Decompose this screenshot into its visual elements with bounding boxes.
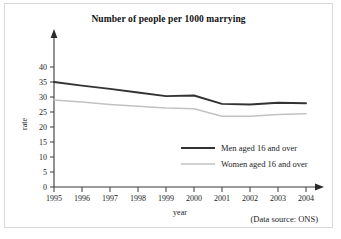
x-axis-title: year <box>173 208 187 217</box>
y-tick-label: 5 <box>43 168 47 177</box>
y-axis-title: rate <box>20 118 29 130</box>
x-tick-label: 1995 <box>46 194 62 203</box>
y-axis-tick-labels: 0 5 10 15 20 25 30 35 40 <box>39 63 47 192</box>
x-tick-label: 2003 <box>270 194 286 203</box>
y-tick-label: 30 <box>39 93 47 102</box>
x-axis-ticks <box>54 187 306 192</box>
y-tick-label: 0 <box>43 183 47 192</box>
x-tick-label: 2000 <box>186 194 202 203</box>
chart-surface: Number of people per 1000 marrying <box>5 4 332 227</box>
data-source-note: (Data source: ONS) <box>250 214 318 224</box>
x-tick-label: 1998 <box>130 194 146 203</box>
y-axis-ticks <box>50 67 54 187</box>
y-tick-label: 40 <box>39 63 47 72</box>
chart-figure-frame: Number of people per 1000 marrying <box>4 3 333 228</box>
legend-label-women: Women aged 16 and over <box>221 159 308 169</box>
x-tick-label: 2004 <box>298 194 314 203</box>
legend-label-men: Men aged 16 and over <box>221 143 297 153</box>
x-tick-label: 2002 <box>242 194 258 203</box>
series-line-men <box>54 82 306 105</box>
line-chart-plot: 0 5 10 15 20 25 30 35 40 rate <box>5 4 334 229</box>
y-tick-label: 20 <box>39 123 47 132</box>
y-tick-label: 35 <box>39 78 47 87</box>
chart-legend: Men aged 16 and over Women aged 16 and o… <box>181 143 308 169</box>
x-axis-tick-labels: 1995 1996 1997 1998 1999 2000 2001 2002 … <box>46 194 314 203</box>
y-tick-label: 15 <box>39 138 47 147</box>
x-tick-label: 2001 <box>214 194 230 203</box>
x-axis-arrow-icon <box>315 184 324 191</box>
x-tick-label: 1999 <box>158 194 174 203</box>
y-axis-arrow-icon <box>51 29 58 38</box>
x-tick-label: 1997 <box>102 194 118 203</box>
y-tick-label: 25 <box>39 108 47 117</box>
y-tick-label: 10 <box>39 153 47 162</box>
x-tick-label: 1996 <box>74 194 90 203</box>
